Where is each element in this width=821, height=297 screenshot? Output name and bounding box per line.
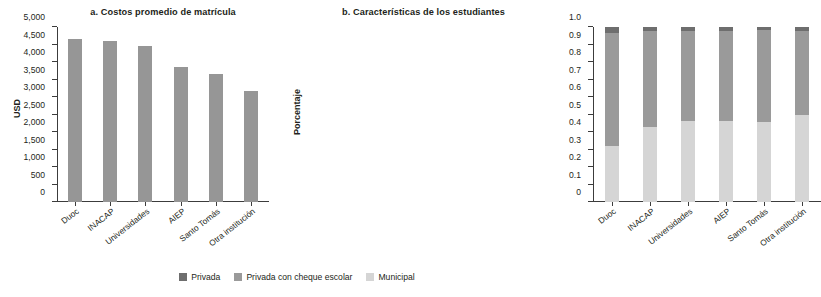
chart-b-bar-slot	[783, 27, 821, 202]
chart-a-x-tick-label: Duoc	[59, 206, 81, 226]
chart-a-bars	[57, 27, 269, 202]
chart-b-y-tick-label: 1.0	[569, 12, 581, 22]
chart-b-x-tick	[802, 202, 803, 206]
chart-b-segment	[719, 121, 733, 202]
chart-a-bar	[209, 74, 223, 202]
chart-a-x-tick	[216, 202, 217, 206]
chart-a-y-tick-label: 1,000	[23, 152, 45, 162]
chart-b-stacked-bar	[795, 27, 809, 202]
chart-a-y-tick-label: 5,000	[23, 12, 45, 22]
legend-item[interactable]: Municipal	[366, 272, 414, 282]
chart-a-bar-slot	[198, 27, 233, 202]
chart-b-x-tick-label: Duoc	[597, 206, 619, 226]
chart-b-y-tick-label: 0.9	[569, 30, 581, 40]
chart-b-y-tick: 1.0	[588, 26, 593, 27]
chart-b-y-tick: 0.2	[588, 166, 593, 167]
chart-b-segment	[681, 31, 695, 121]
legend-swatch-icon	[179, 273, 187, 281]
chart-a-y-tick-label: 4,000	[23, 47, 45, 57]
chart-b-segment	[605, 33, 619, 146]
chart-a-y-tick-label: 4,500	[23, 30, 45, 40]
chart-b-segment	[681, 121, 695, 202]
chart-a-y-tick-label: 2,500	[23, 100, 45, 110]
chart-panel-b: b. Características de los estudiantes Du…	[281, 0, 554, 262]
chart-b-y-tick: 0.5	[588, 114, 593, 115]
chart-b-y-tick: 0.9	[588, 44, 593, 45]
chart-a-x-tick	[181, 202, 182, 206]
chart-b-y-tick: 0	[588, 201, 593, 202]
chart-b-segment	[605, 146, 619, 202]
legend-label: Privada	[191, 272, 220, 282]
chart-b-y-tick-label: 0.1	[569, 170, 581, 180]
chart-a-y-tick: 5,000	[52, 26, 57, 27]
chart-a-x-tick	[75, 202, 76, 206]
chart-a-y-tick: 3,000	[52, 96, 57, 97]
chart-b-segment	[643, 127, 657, 202]
chart-b-x-tick	[764, 202, 765, 206]
chart-b-y-tick-label: 0	[576, 187, 581, 197]
chart-b-y-tick-label: 0.5	[569, 100, 581, 110]
chart-b-segment	[719, 31, 733, 121]
chart-a-x-tick	[251, 202, 252, 206]
chart-b-x-tick-labels: DuocINACAPUniversidadesAIEPSanto TomásOt…	[593, 202, 821, 260]
chart-b-bar-slot	[669, 27, 707, 202]
chart-a-y-tick: 2,500	[52, 114, 57, 115]
chart-b-segment	[795, 31, 809, 114]
chart-a-y-tick: 4,500	[52, 44, 57, 45]
chart-b-stacked-bar	[643, 27, 657, 202]
chart-b-segment	[643, 31, 657, 126]
legend-item[interactable]: Privada	[179, 272, 220, 282]
chart-a-y-tick-label: 3,000	[23, 82, 45, 92]
chart-b-title: b. Características de los estudiantes	[281, 7, 560, 17]
chart-b-stacked-bar	[605, 27, 619, 202]
chart-b-stacked-bar	[719, 27, 733, 202]
chart-b-y-tick-label: 0.2	[569, 152, 581, 162]
chart-b-x-tick	[612, 202, 613, 206]
chart-a-bar-slot	[234, 27, 269, 202]
chart-a-bar-slot	[92, 27, 127, 202]
chart-a-y-tick: 2,000	[52, 131, 57, 132]
chart-a-bar-slot	[57, 27, 92, 202]
chart-b-stacked-bar	[757, 27, 771, 202]
chart-b-y-tick-label: 0.8	[569, 47, 581, 57]
legend-label: Municipal	[378, 272, 414, 282]
chart-b-y-tick: 0.3	[588, 149, 593, 150]
chart-b-bar-slot	[593, 27, 631, 202]
chart-a-bar	[103, 41, 117, 202]
chart-a-bar-slot	[128, 27, 163, 202]
chart-b-y-tick-label: 0.4	[569, 117, 581, 127]
legend-swatch-icon	[234, 273, 242, 281]
chart-a-y-tick-label: 1,500	[23, 135, 45, 145]
chart-a-y-tick-label: 3,500	[23, 65, 45, 75]
chart-a-bar	[138, 46, 152, 202]
chart-a-bar	[68, 39, 82, 202]
chart-b-x-tick	[688, 202, 689, 206]
chart-b-y-tick-label: 0.3	[569, 135, 581, 145]
chart-a-y-tick: 3,500	[52, 79, 57, 80]
chart-b-x-tick-label: AIEP	[711, 206, 732, 226]
chart-b-y-tick: 0.7	[588, 79, 593, 80]
chart-b-y-tick: 0.4	[588, 131, 593, 132]
chart-b-y-axis-label: Porcentaje	[292, 89, 302, 135]
chart-b-segment	[795, 115, 809, 203]
chart-legend: PrivadaPrivada con cheque escolarMunicip…	[0, 272, 554, 282]
chart-b-bar-slot	[745, 27, 783, 202]
chart-a-y-tick-label: 2,000	[23, 117, 45, 127]
chart-a-y-tick: 1,000	[52, 166, 57, 167]
chart-a-y-tick-label: 500	[31, 170, 45, 180]
chart-b-y-tick: 0.1	[588, 184, 593, 185]
chart-b-segment	[757, 122, 771, 202]
chart-a-title: a. Costos promedio de matrícula	[0, 7, 308, 17]
chart-a-x-tick-labels: DuocINACAPUniversidadesAIEPSanto TomásOt…	[57, 202, 269, 260]
legend-item[interactable]: Privada con cheque escolar	[234, 272, 352, 282]
chart-b-bar-slot	[631, 27, 669, 202]
chart-a-bar	[174, 67, 188, 202]
chart-b-plot-area: DuocINACAPUniversidadesAIEPSanto TomásOt…	[593, 27, 821, 202]
chart-a-y-tick: 0	[52, 201, 57, 202]
chart-b-x-tick	[650, 202, 651, 206]
chart-b-y-tick: 0.6	[588, 96, 593, 97]
chart-a-x-tick	[145, 202, 146, 206]
chart-panel-a: a. Costos promedio de matrícula USD Duoc…	[0, 0, 290, 262]
chart-b-y-tick-label: 0.6	[569, 82, 581, 92]
